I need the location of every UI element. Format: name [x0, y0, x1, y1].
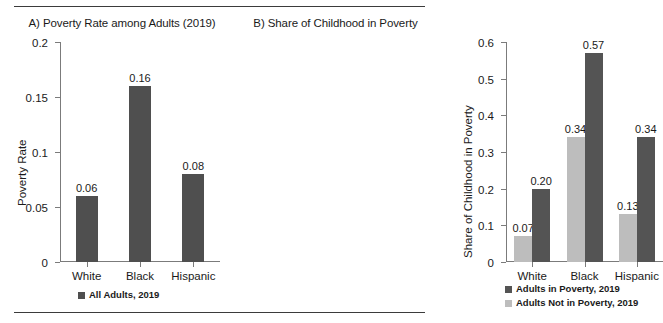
bar: 0.57	[585, 53, 603, 262]
panel-b: B) Share of Childhood in Poverty Share o…	[228, 0, 439, 323]
x-tick	[87, 262, 88, 267]
panel-b-title: B) Share of Childhood in Poverty	[230, 17, 441, 29]
panel-a-plot-area: 00.050.10.150.2White0.06Black0.16Hispani…	[60, 42, 220, 262]
y-tick: 0	[501, 262, 506, 263]
legend-item: All Adults, 2019	[78, 289, 159, 301]
bar: 0.16	[129, 86, 151, 262]
legend-label: Adults Not in Poverty, 2019	[516, 297, 638, 309]
y-tick: 0.1	[501, 225, 506, 226]
y-tick-label: 0.1	[478, 220, 494, 232]
panel-b-legend: Adults in Poverty, 2019Adults Not in Pov…	[505, 283, 638, 311]
legend-swatch-icon	[505, 286, 512, 293]
y-tick: 0.1	[55, 152, 60, 153]
y-tick-label: 0.15	[26, 92, 48, 104]
panel-b-y-axis-line	[506, 42, 507, 262]
bar-value-label: 0.34	[635, 123, 656, 135]
bar-value-label: 0.20	[530, 175, 551, 187]
x-category-label: Hispanic	[615, 270, 659, 282]
bar: 0.08	[182, 174, 204, 262]
y-tick-label: 0.2	[478, 184, 494, 196]
panel-a-y-axis-label: Poverty Rate	[16, 140, 28, 206]
x-category-label: Hispanic	[171, 270, 215, 282]
bar-value-label: 0.16	[129, 72, 150, 84]
panel-a: A) Poverty Rate among Adults (2019) Pove…	[0, 0, 228, 323]
y-tick-label: 0.3	[478, 147, 494, 159]
legend-swatch-icon	[505, 300, 512, 307]
y-tick-label: 0.05	[26, 202, 48, 214]
panel-b-y-axis-label: Share of Childhood in Poverty	[462, 105, 474, 258]
legend-swatch-icon	[78, 292, 85, 299]
bar-value-label: 0.13	[617, 200, 638, 212]
bar-value-label: 0.06	[76, 182, 97, 194]
x-category-label: White	[72, 270, 101, 282]
y-tick: 0.15	[55, 97, 60, 98]
legend-item: Adults Not in Poverty, 2019	[505, 297, 638, 309]
y-tick: 0.2	[501, 189, 506, 190]
panel-a-y-axis-line	[60, 42, 61, 262]
panel-b-plot-area: 00.10.20.30.40.50.6White0.070.20Black0.3…	[506, 42, 663, 262]
x-tick	[532, 262, 533, 267]
panel-a-legend: All Adults, 2019	[78, 289, 159, 303]
y-tick: 0.5	[501, 79, 506, 80]
bar: 0.34	[637, 137, 655, 262]
bar-value-label: 0.34	[565, 123, 586, 135]
legend-label: Adults in Poverty, 2019	[516, 283, 620, 295]
x-tick	[193, 262, 194, 267]
y-tick-label: 0.6	[478, 37, 494, 49]
y-tick: 0.4	[501, 115, 506, 116]
bar-value-label: 0.07	[512, 222, 533, 234]
bar: 0.20	[532, 189, 550, 262]
y-tick-label: 0.4	[478, 110, 494, 122]
bar-value-label: 0.08	[183, 160, 204, 172]
y-tick-label: 0.2	[32, 37, 48, 49]
y-tick: 0.3	[501, 152, 506, 153]
y-tick-label: 0.1	[32, 147, 48, 159]
legend-label: All Adults, 2019	[89, 289, 159, 301]
x-tick	[140, 262, 141, 267]
x-tick	[637, 262, 638, 267]
y-tick: 0.05	[55, 207, 60, 208]
y-tick: 0.2	[55, 42, 60, 43]
legend-item: Adults in Poverty, 2019	[505, 283, 638, 295]
x-category-label: Black	[126, 270, 154, 282]
y-tick-label: 0	[488, 257, 494, 269]
bar: 0.34	[567, 137, 585, 262]
y-tick: 0.6	[501, 42, 506, 43]
y-tick-label: 0.5	[478, 74, 494, 86]
y-tick-label: 0	[42, 257, 48, 269]
y-tick: 0	[55, 262, 60, 263]
bar: 0.06	[76, 196, 98, 262]
bar: 0.07	[514, 236, 532, 262]
x-tick	[585, 262, 586, 267]
bar: 0.13	[619, 214, 637, 262]
bar-value-label: 0.57	[583, 39, 604, 51]
x-category-label: Black	[570, 270, 598, 282]
x-category-label: White	[517, 270, 546, 282]
panel-a-title: A) Poverty Rate among Adults (2019)	[8, 17, 236, 29]
